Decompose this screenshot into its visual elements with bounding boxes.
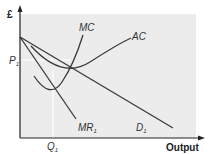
x-axis-label: Output [166,142,199,153]
cost-revenue-diagram: £ Output P1 Q1 MC AC MR1 D1 [0,0,214,154]
y-axis-arrow-icon [18,5,23,12]
mc-label: MC [79,22,95,33]
ac-label: AC [131,31,147,42]
price-label: P1 [9,55,19,67]
quantity-label: Q1 [47,141,58,153]
x-axis-arrow-icon [198,136,205,141]
y-axis-label: £ [7,9,13,20]
